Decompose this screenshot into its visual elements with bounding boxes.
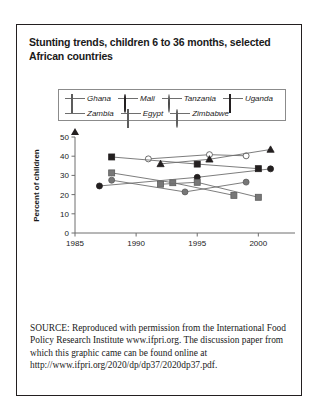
stunting-trends-line-chart: 010203040501985199019952000 <box>17 129 303 265</box>
legend-label-ghana: Ghana <box>87 94 111 103</box>
legend-item-tanzania[interactable]: Tanzania <box>162 94 216 103</box>
legend-item-egypt[interactable]: Egypt <box>121 109 163 118</box>
figure-container: Stunting trends, children 6 to 36 months… <box>16 24 302 396</box>
legend-item-mali[interactable]: Mali <box>118 94 155 103</box>
svg-text:0: 0 <box>65 229 70 238</box>
legend-swatch-tanzania <box>162 95 182 103</box>
svg-text:1995: 1995 <box>188 239 206 248</box>
svg-text:10: 10 <box>60 210 69 219</box>
legend-swatch-egypt <box>121 110 141 118</box>
svg-text:50: 50 <box>60 133 69 142</box>
svg-text:1985: 1985 <box>66 239 84 248</box>
legend-label-tanzania: Tanzania <box>184 94 216 103</box>
legend-item-ghana[interactable]: Ghana <box>65 94 111 103</box>
legend-label-zimbabwe: Zimbabwe <box>192 109 229 118</box>
legend-label-mali: Mali <box>140 94 155 103</box>
chart-legend: Ghana Mali Tanzania Uganda <box>58 89 286 121</box>
svg-text:2000: 2000 <box>249 239 267 248</box>
source-kicker: SOURCE: <box>30 323 70 333</box>
legend-swatch-zambia <box>65 110 85 118</box>
svg-text:40: 40 <box>60 152 69 161</box>
legend-swatch-ghana <box>65 95 85 103</box>
source-note: SOURCE: Reproduced with permission from … <box>30 322 292 372</box>
svg-text:30: 30 <box>60 171 69 180</box>
page-title: Stunting trends, children 6 to 36 months… <box>29 36 287 63</box>
legend-item-uganda[interactable]: Uganda <box>223 94 273 103</box>
legend-swatch-mali <box>118 95 138 103</box>
legend-label-zambia: Zambia <box>87 109 114 118</box>
legend-label-egypt: Egypt <box>143 109 163 118</box>
legend-item-zambia[interactable]: Zambia <box>65 109 114 118</box>
legend-swatch-uganda <box>223 95 243 103</box>
legend-row-2: Zambia Egypt Zimbabwe <box>59 106 285 121</box>
svg-text:20: 20 <box>60 191 69 200</box>
legend-swatch-zimbabwe <box>170 110 190 118</box>
chart-plot-area: Percent of children 01020304050198519901… <box>17 129 303 265</box>
legend-row-1: Ghana Mali Tanzania Uganda <box>59 91 285 106</box>
svg-text:1990: 1990 <box>127 239 145 248</box>
legend-item-zimbabwe[interactable]: Zimbabwe <box>170 109 229 118</box>
legend-label-uganda: Uganda <box>245 94 273 103</box>
